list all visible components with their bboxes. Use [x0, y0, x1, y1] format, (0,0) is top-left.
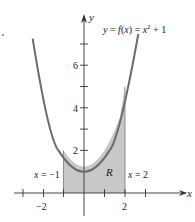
x-tick-label-neg2: −2: [36, 201, 47, 212]
x-tick-label-2: 2: [122, 201, 127, 212]
y-axis-label: y: [88, 11, 94, 23]
x-axis-label: x: [186, 187, 192, 199]
region-label: R: [105, 166, 113, 178]
left-boundary-label: x = −1: [33, 169, 60, 180]
y-tick-label-6: 6: [73, 60, 78, 71]
stray-dot: [2, 34, 4, 36]
y-tick-label-2: 2: [73, 145, 78, 156]
right-boundary-label: x = 2: [127, 169, 148, 180]
y-tick-label-4: 4: [73, 103, 78, 114]
area-under-curve-figure: y x 6 4 2 −2 2 R x = −1 x = 2 y = f(x) =…: [0, 0, 195, 222]
function-equation-label: y = f(x) = x2 + 1: [102, 23, 166, 36]
